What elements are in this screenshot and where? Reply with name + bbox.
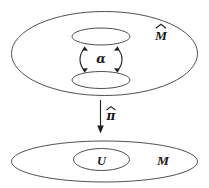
upper-inner-ellipse-top <box>72 28 130 45</box>
alpha-left-arrowhead-top <box>82 46 88 51</box>
figure-canvas: α M π U M <box>0 0 209 188</box>
lower-inner-label: U <box>97 154 107 168</box>
projection-label: π <box>106 109 116 123</box>
alpha-right-arc <box>118 49 123 71</box>
covering-space-diagram: α M π U M <box>0 0 209 188</box>
alpha-left-arc <box>80 49 85 71</box>
alpha-right-arrowhead-top <box>114 46 120 51</box>
projection-arrow-head <box>97 126 104 134</box>
lower-outer-label: M <box>156 153 170 168</box>
upper-outer-label: M <box>154 28 168 43</box>
alpha-label: α <box>96 51 106 66</box>
upper-inner-ellipse-bottom <box>72 72 130 89</box>
